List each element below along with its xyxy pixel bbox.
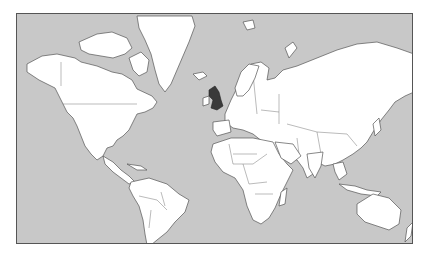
world-map (16, 13, 413, 244)
new-zealand (405, 222, 413, 242)
south-america (129, 178, 189, 244)
world-map-svg (17, 14, 413, 244)
canadian-arctic-islands (79, 32, 132, 58)
central-america (103, 156, 135, 184)
svalbard (243, 20, 255, 30)
baffin-island (129, 52, 149, 76)
southeast-asia (333, 162, 347, 180)
australia (357, 194, 401, 230)
iberia (213, 120, 231, 136)
ireland (203, 96, 209, 106)
greenland (137, 16, 195, 92)
caribbean-islands (127, 164, 147, 170)
united-kingdom-highlight (209, 86, 223, 110)
novaya-zemlya (285, 42, 297, 58)
iceland (193, 72, 207, 80)
